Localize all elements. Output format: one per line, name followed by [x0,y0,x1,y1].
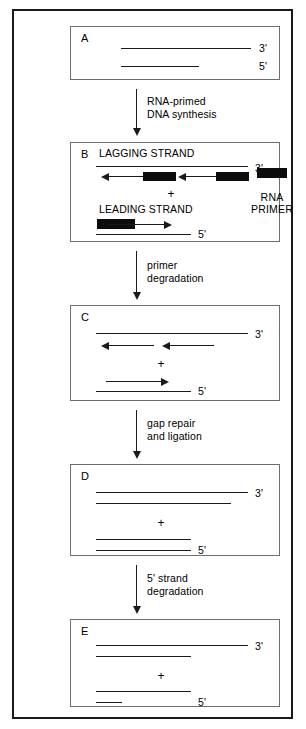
panel-e-three-prime-label: 3' [255,641,263,652]
panel-a-top-strand [121,48,251,49]
transition-label-3-line2: and ligation [147,430,202,443]
panel-c-five-prime-label: 5' [198,386,206,397]
panel-b-lagging-strand-title: LAGGING STRAND [99,148,194,159]
panel-c-fragment-arrow-left [108,345,154,346]
panel-e-bottom-strand-upper [96,691,191,692]
panel-b-plus-sign: + [161,188,181,200]
panel-d-five-prime-label: 5' [198,545,206,556]
panel-b-leading-template-strand [96,234,191,235]
transition-arrow-3 [136,410,137,452]
panel-a-five-prime-label: 5' [259,61,267,72]
panel-d-top-strand-lower [96,503,231,504]
panel-d-plus-sign: + [151,517,171,529]
rna-primer-legend-line1: RNA [242,191,302,203]
panel-c-bottom-template-strand [96,391,191,392]
panel-d-top-strand-upper [96,492,248,493]
panel-a-letter: A [81,33,89,44]
transition-label-2-line1: primer [147,259,204,272]
panel-c-top-template-strand [96,333,248,334]
panel-c-letter: C [81,312,89,323]
transition-label-1-line2: DNA synthesis [147,108,217,121]
transition-label-4-line1: 5' strand [147,572,204,585]
rna-primer-legend-line2: PRIMER [242,203,302,215]
panel-a-three-prime-label: 3' [259,43,267,54]
panel-d: D 3' + 5' [70,464,280,556]
transition-label-1-line1: RNA-primed [147,95,217,108]
panel-e-top-strand-lower [96,656,191,657]
rna-primer-legend-swatch [257,168,287,178]
panel-e-letter: E [81,626,89,637]
panel-b-okazaki-arrow-left [108,176,143,177]
transition-label-3: gap repair and ligation [147,417,202,442]
rna-primer-legend-caption: RNA PRIMER [242,191,302,215]
panel-d-letter: D [81,471,89,482]
panel-b-five-prime-label: 5' [198,229,206,240]
panel-b-leading-arrow [109,224,165,225]
panel-e-top-strand-upper [96,645,248,646]
transition-label-4: 5' strand degradation [147,572,204,597]
panel-b-okazaki-arrow-right [185,176,216,177]
outer-frame: A 3' 5' RNA-primed DNA synthesis B LAGGI… [12,9,293,719]
panel-c: C 3' + 5' [70,305,280,401]
panel-e-bottom-strand-stub [96,702,122,703]
panel-b-letter: B [81,149,89,160]
panel-d-bottom-strand-lower [96,550,191,551]
transition-label-3-line1: gap repair [147,417,202,430]
panel-c-fragment-arrow-right [169,345,214,346]
panel-b-primer-box-1 [143,172,176,181]
panel-d-three-prime-label: 3' [255,488,263,499]
transition-label-2-line2: degradation [147,272,204,285]
panel-e-five-prime-label: 5' [198,697,206,708]
transition-label-1: RNA-primed DNA synthesis [147,95,217,120]
panel-a: A 3' 5' [70,26,280,80]
panel-e: E 3' + 5' [70,619,280,707]
transition-label-2: primer degradation [147,259,204,284]
panel-c-plus-sign: + [151,358,171,370]
panel-d-bottom-strand-upper [96,539,191,540]
figure-root: A 3' 5' RNA-primed DNA synthesis B LAGGI… [0,0,306,729]
transition-arrow-4 [136,565,137,607]
panel-c-three-prime-label: 3' [255,329,263,340]
panel-a-bottom-strand [121,66,199,67]
panel-e-plus-sign: + [151,670,171,682]
panel-b-primer-box-2 [216,172,249,181]
transition-arrow-2 [136,251,137,293]
panel-b-lagging-template-strand [96,166,248,167]
transition-label-4-line2: degradation [147,585,204,598]
transition-arrow-1 [136,89,137,129]
panel-c-leading-arrow [106,381,162,382]
panel-b-leading-strand-title: LEADING STRAND [99,204,193,215]
